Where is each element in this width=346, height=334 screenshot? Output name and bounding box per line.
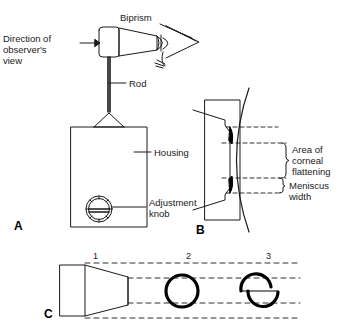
mire-circle-position-2 (166, 275, 198, 307)
panel-a-letter: A (14, 219, 23, 233)
direction-arrow (80, 40, 100, 47)
cornea-curve (237, 88, 250, 232)
adjustment-knob (86, 196, 112, 222)
panel-b-letter: B (196, 223, 205, 237)
panel-c-letter: C (44, 307, 53, 321)
meniscus-width-brace (279, 178, 285, 193)
biprism-label: Biprism (120, 12, 152, 23)
panel-c-prism (60, 265, 128, 316)
adjustment-knob-label: Adjustment knob (149, 197, 197, 219)
panel-c-marker-1: 1 (93, 251, 98, 261)
applanation-tonometer-figure: Biprism Direction of observer's view Rod… (0, 0, 346, 334)
housing-label: Housing (154, 147, 189, 158)
meniscus-width-label: Meniscus width (289, 180, 329, 202)
biprism-head (99, 27, 163, 57)
rod (108, 57, 110, 112)
rod-label: Rod (129, 78, 146, 89)
rod-base (94, 113, 124, 127)
direction-of-view-label: Direction of observer's view (3, 33, 51, 66)
prism-contact-profile (193, 110, 230, 210)
corneal-flattening-brace (282, 143, 289, 178)
panel-c-marker-3: 3 (266, 251, 271, 261)
tonometer-tip-body (205, 100, 240, 220)
panel-c-marker-2: 2 (186, 251, 191, 261)
mire-semicircles-position-3 (241, 274, 278, 307)
corneal-flattening-label: Area of corneal flattening (292, 144, 331, 177)
